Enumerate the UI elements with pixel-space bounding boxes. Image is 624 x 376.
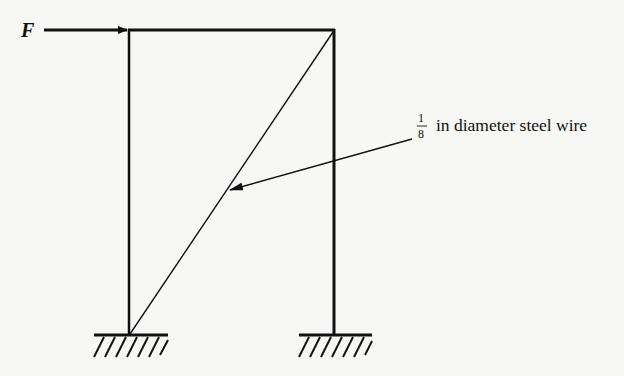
fraction-numerator: 1: [418, 111, 424, 125]
wire-description: in diameter steel wire: [436, 115, 587, 135]
steel-wire: [130, 32, 333, 334]
right-fixed-support-icon: [299, 335, 372, 357]
wire-label: 1 8 in diameter steel wire: [417, 111, 587, 141]
portal-frame-diagram: F 1 8 in diameter steel wire: [0, 0, 624, 376]
force-label: F: [20, 19, 35, 41]
fraction-denominator: 8: [418, 127, 424, 141]
left-fixed-support-icon: [94, 335, 168, 357]
wire-leader-arrow-icon: [230, 139, 412, 190]
